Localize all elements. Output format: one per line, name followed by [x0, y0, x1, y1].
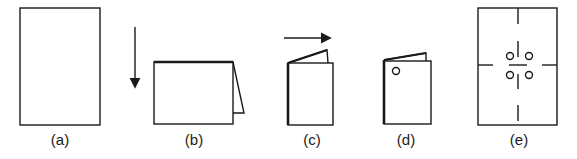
label-c: (c) [292, 131, 332, 148]
panel-c-folded-sheet [288, 50, 333, 125]
panel-b-folded-sheet [154, 62, 244, 124]
label-d: (d) [386, 131, 426, 148]
panel-a-sheet [20, 8, 100, 125]
panel-d-punched-sheet [384, 53, 431, 124]
label-a: (a) [40, 131, 80, 148]
folding-diagram [0, 0, 577, 159]
hole-icon [526, 53, 533, 60]
panel-e-unfolded-sheet [478, 8, 557, 125]
hole-icon [507, 72, 514, 79]
hole-icon [507, 53, 514, 60]
label-e: (e) [499, 131, 539, 148]
label-b: (b) [174, 131, 214, 148]
hole-icon [526, 72, 533, 79]
